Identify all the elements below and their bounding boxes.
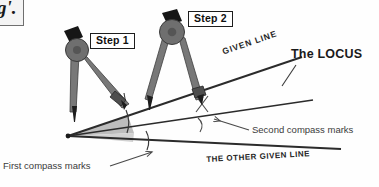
other-given-line bbox=[68, 136, 341, 149]
first-compass-marks-label: First compass marks bbox=[3, 160, 91, 171]
second-compass-marks-label: Second compass marks bbox=[252, 124, 353, 135]
construction-drawing bbox=[0, 0, 379, 187]
step-2-label: Step 2 bbox=[188, 11, 233, 27]
compass1-hinge-center bbox=[73, 46, 81, 54]
clipped-text-box: g'. bbox=[0, 0, 24, 26]
step-1-label: Step 1 bbox=[90, 33, 135, 49]
diagram-canvas: g'. Step 1 Step 2 GIVEN LINE THE OTHER G… bbox=[0, 0, 379, 187]
second-arc-right bbox=[198, 118, 202, 132]
vertex-point bbox=[66, 134, 71, 139]
compass1-left-leg bbox=[70, 55, 79, 112]
compass1-needle bbox=[72, 106, 77, 122]
locus-callout-label: The LOCUS bbox=[291, 47, 362, 61]
compass-point-ticks bbox=[124, 88, 202, 104]
second-marks-leader-line bbox=[214, 119, 249, 130]
compass2-hinge-center bbox=[168, 28, 177, 37]
locus-leader-line bbox=[282, 65, 296, 86]
first-marks-leader-line bbox=[110, 152, 152, 166]
clipped-text-fragment: g'. bbox=[0, 0, 17, 19]
